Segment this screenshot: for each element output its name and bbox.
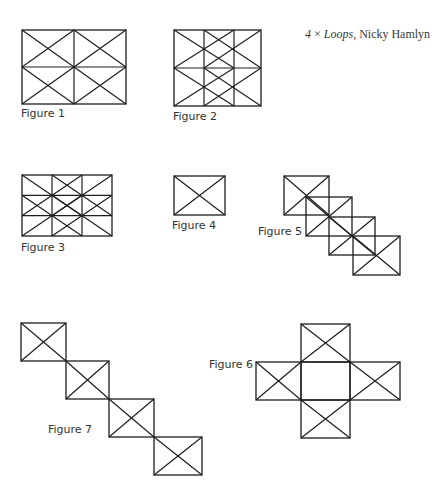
figure-6-label: Figure 6 [209,359,253,370]
figure-1-drawing [22,30,126,104]
figure-2-label: Figure 2 [173,111,217,122]
figure-6-drawing [256,324,400,438]
figure-7-label: Figure 7 [48,424,92,435]
figure-3-drawing [22,175,112,236]
figures-canvas [0,0,443,493]
figure-1-label: Figure 1 [21,108,65,119]
figure-5-label: Figure 5 [258,226,302,237]
figure-3-label: Figure 3 [21,242,65,253]
figure-4-label: Figure 4 [172,220,216,231]
figure-4-drawing [174,176,225,215]
figure-7-drawing [21,323,202,475]
center-rectangle [301,362,350,400]
figure-2-drawing [174,30,261,106]
